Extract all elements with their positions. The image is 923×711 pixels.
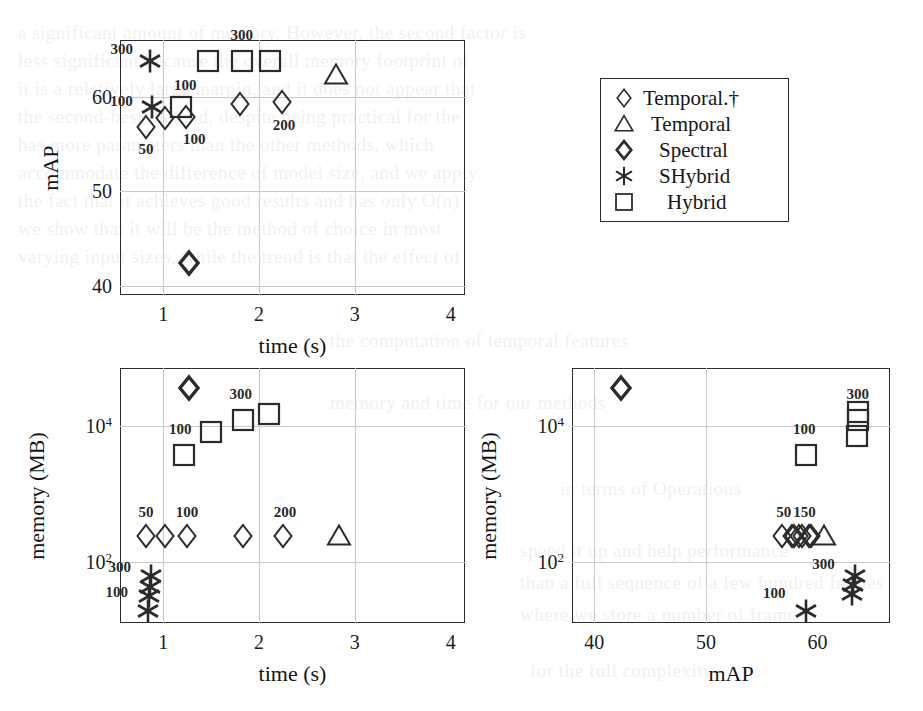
- y-axis-title: memory (MB): [24, 432, 50, 560]
- data-point-diamond-thin: [225, 89, 255, 119]
- data-point-label: 50: [138, 140, 153, 157]
- data-point-label: 300: [812, 555, 835, 572]
- data-point-label: 300: [229, 386, 252, 403]
- data-point-label: 100: [169, 421, 192, 438]
- legend-label: Temporal: [651, 112, 731, 137]
- legend-label: Hybrid: [667, 190, 727, 215]
- legend-entry: Spectral: [611, 137, 776, 163]
- data-point-star: [837, 579, 867, 609]
- data-point-square: [193, 46, 223, 76]
- x-axis-title: mAP: [708, 661, 753, 687]
- x-tick-label: 1: [158, 631, 168, 654]
- y-tick-label: 102: [510, 549, 564, 574]
- data-point-label: 150: [793, 503, 816, 520]
- bleedthrough-line: for the full complexity: [530, 660, 713, 682]
- gridline-vertical: [163, 40, 164, 295]
- x-tick-label: 4: [446, 631, 456, 654]
- y-tick-label: 60: [58, 85, 112, 108]
- data-point-diamond-thin: [172, 521, 202, 551]
- y-tick-label: 104: [510, 413, 564, 438]
- gridline-horizontal: [120, 562, 465, 563]
- legend-entry: SHybrid: [611, 163, 776, 189]
- data-point-label: 300: [230, 26, 253, 43]
- data-point-star: [791, 596, 821, 626]
- data-point-label: 100: [174, 77, 197, 94]
- legend-entry: Temporal.†: [611, 85, 776, 111]
- data-point-star: [135, 46, 165, 76]
- data-point-star: [137, 92, 167, 122]
- data-point-square: [166, 92, 196, 122]
- x-tick-label: 2: [254, 631, 264, 654]
- data-point-label: 50: [776, 503, 791, 520]
- data-point-diamond-bold: [606, 373, 636, 403]
- chart-memory-vs-time: 1234104102time (s)memory (MB)50100200300…: [120, 368, 465, 623]
- data-point-label: 100: [183, 130, 206, 147]
- data-point-label: 200: [274, 503, 297, 520]
- chart-map-vs-time: 1234605040time (s)mAP5010020030010010030…: [120, 40, 465, 295]
- data-point-label: 100: [110, 93, 133, 110]
- x-tick-label: 2: [254, 303, 264, 326]
- legend-entry: Temporal: [611, 111, 776, 137]
- x-axis-title: time (s): [259, 661, 327, 687]
- data-point-square: [255, 46, 285, 76]
- y-axis-title: mAP: [38, 145, 64, 190]
- data-point-triangle: [321, 60, 351, 90]
- data-point-label: 200: [273, 117, 296, 134]
- gridline-horizontal: [120, 286, 465, 287]
- legend-marker-diamond-thin-icon: [611, 86, 637, 110]
- x-axis-title: time (s): [259, 333, 327, 359]
- x-tick-label: 4: [446, 303, 456, 326]
- gridline-vertical: [259, 40, 260, 295]
- data-point-triangle: [809, 521, 839, 551]
- legend-label: SHybrid: [659, 164, 730, 189]
- y-axis-title: memory (MB): [476, 432, 502, 560]
- legend-label: Temporal.†: [643, 86, 739, 111]
- y-tick-label: 40: [58, 274, 112, 297]
- data-point-label: 50: [138, 503, 153, 520]
- legend-marker-diamond-bold-icon: [611, 138, 637, 162]
- chart-memory-vs-map: 405060104102mAPmemory (MB)50150300100100…: [572, 368, 890, 623]
- data-point-diamond-thin: [228, 521, 258, 551]
- gridline-vertical: [355, 40, 356, 295]
- legend-label: Spectral: [659, 138, 728, 163]
- gridline-horizontal: [120, 191, 465, 192]
- data-point-diamond-thin: [268, 521, 298, 551]
- data-point-label: 300: [110, 40, 133, 57]
- x-tick-label: 40: [584, 631, 604, 654]
- plot-frame: [120, 368, 465, 623]
- data-point-diamond-bold: [174, 248, 204, 278]
- figure-canvas: a significant amount of memory. However,…: [0, 0, 923, 711]
- gridline-vertical: [594, 368, 595, 623]
- bleedthrough-line: the computation of temporal features: [330, 330, 629, 352]
- y-tick-label: 50: [58, 180, 112, 203]
- data-point-diamond-bold: [174, 373, 204, 403]
- legend-entry: Hybrid: [611, 189, 776, 215]
- data-point-square: [791, 440, 821, 470]
- gridline-vertical: [706, 368, 707, 623]
- data-point-star: [133, 596, 163, 626]
- data-point-triangle: [324, 521, 354, 551]
- legend: Temporal.†TemporalSpectralSHybridHybrid: [600, 78, 789, 222]
- data-point-square: [843, 397, 873, 427]
- legend-marker-star-icon: [611, 164, 637, 188]
- plot-frame: [120, 40, 465, 295]
- data-point-diamond-thin: [267, 87, 297, 117]
- data-point-label: 300: [108, 558, 131, 575]
- x-tick-label: 50: [696, 631, 716, 654]
- x-tick-label: 60: [807, 631, 827, 654]
- data-point-label: 100: [106, 584, 129, 601]
- y-tick-label: 104: [58, 413, 112, 438]
- data-point-label: 100: [763, 584, 786, 601]
- x-tick-label: 3: [350, 303, 360, 326]
- data-point-square: [254, 399, 284, 429]
- y-tick-label: 102: [58, 549, 112, 574]
- x-tick-label: 3: [350, 631, 360, 654]
- data-point-square: [169, 440, 199, 470]
- data-point-label: 100: [793, 421, 816, 438]
- gridline-vertical: [355, 368, 356, 623]
- legend-marker-square-icon: [611, 190, 637, 214]
- legend-marker-triangle-icon: [611, 112, 637, 136]
- data-point-square: [196, 417, 226, 447]
- x-tick-label: 1: [158, 303, 168, 326]
- data-point-square: [227, 46, 257, 76]
